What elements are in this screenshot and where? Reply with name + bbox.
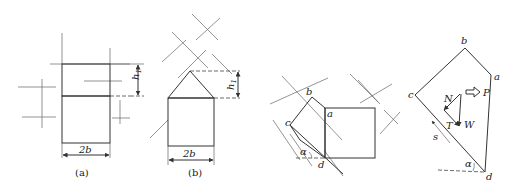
figure-d: b a c d N P T W s α: [408, 35, 500, 182]
angle-alpha: α: [300, 146, 307, 157]
vertex-d: d: [486, 171, 492, 182]
force-W: W: [464, 119, 475, 130]
figure-c: b c a d α: [270, 74, 400, 176]
hatched-region: [62, 64, 110, 96]
height-label-a: h1: [130, 69, 143, 80]
vertex-b: b: [306, 86, 312, 97]
height-dimension-a: h1: [110, 64, 144, 96]
hatched-region: [290, 97, 325, 158]
hatched-triangle: [168, 71, 214, 98]
force-N: N: [443, 93, 454, 104]
vertex-c: c: [285, 117, 291, 128]
vertex-c: c: [408, 89, 414, 100]
height-label-b: h1: [225, 79, 238, 90]
vertex-b: b: [461, 35, 467, 46]
vertex-a: a: [327, 108, 333, 119]
block-body: [168, 98, 214, 146]
force-P: P: [482, 87, 490, 98]
slope-label: s: [433, 131, 438, 142]
force-P-arrow: [466, 87, 480, 97]
caption-a: (a): [75, 167, 89, 178]
caption-b: (b): [188, 167, 202, 178]
vertex-d: d: [318, 159, 324, 170]
block-body: [62, 96, 110, 143]
width-label: 2b: [78, 144, 92, 155]
angle-alpha: α: [465, 158, 472, 169]
figure-b: h1 2b (b): [150, 14, 240, 178]
width-label: 2b: [182, 148, 196, 159]
force-T: T: [446, 120, 454, 131]
diagram-canvas: 2b (a) h1 h1 2b (b): [0, 0, 513, 192]
block-outline: [415, 48, 491, 172]
force-W-arrow: [459, 94, 461, 126]
figure-a: 2b (a): [18, 33, 130, 178]
vertex-a: a: [494, 71, 500, 82]
